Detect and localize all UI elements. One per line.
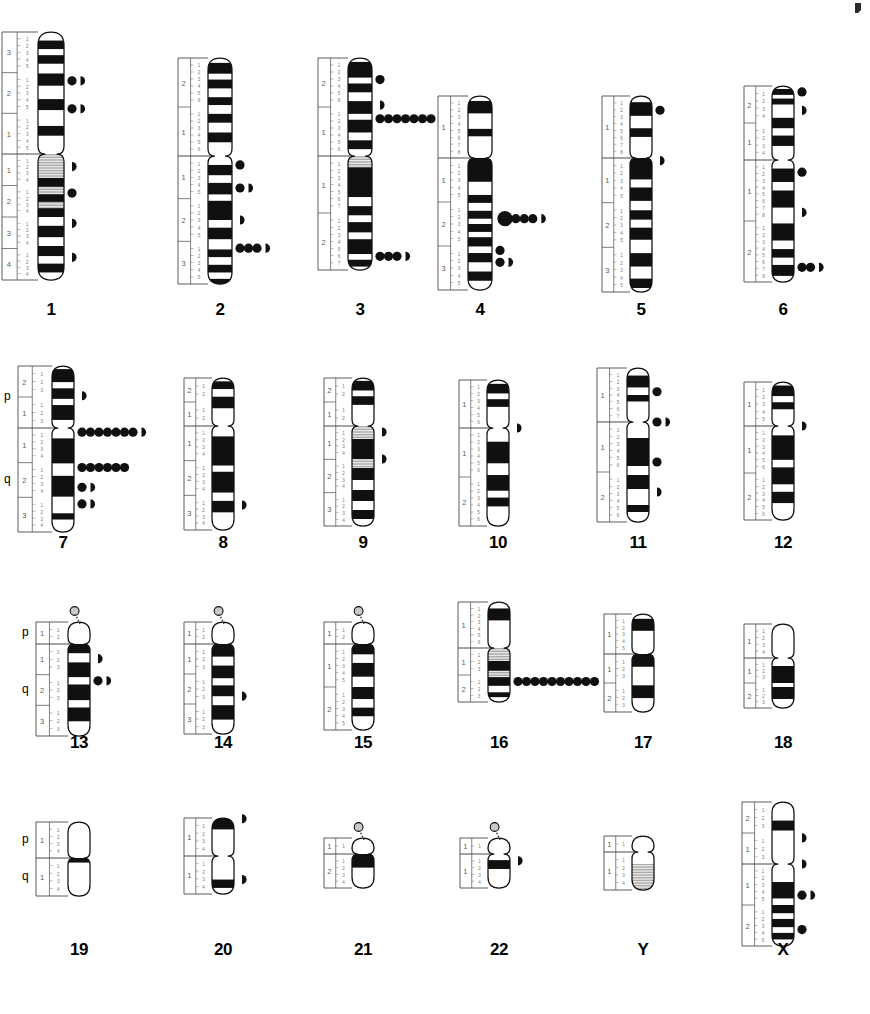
chromosome-body xyxy=(68,622,90,736)
svg-text:1: 1 xyxy=(202,466,205,471)
chromosome-18[interactable]: 1123411232123 xyxy=(738,618,870,718)
svg-text:1: 1 xyxy=(746,881,750,890)
svg-text:1: 1 xyxy=(605,123,609,132)
svg-text:2: 2 xyxy=(458,108,461,113)
svg-text:7: 7 xyxy=(338,261,341,266)
full-circle-marker xyxy=(103,428,112,437)
full-circle-marker xyxy=(556,677,565,686)
svg-text:1: 1 xyxy=(462,449,466,458)
svg-text:4: 4 xyxy=(620,231,623,236)
svg-text:3: 3 xyxy=(40,717,44,726)
svg-text:3: 3 xyxy=(57,665,60,670)
svg-text:1: 1 xyxy=(327,439,331,448)
svg-text:4: 4 xyxy=(338,183,341,188)
marker-group xyxy=(518,856,523,865)
half-circle-marker xyxy=(72,162,77,171)
svg-text:3: 3 xyxy=(338,176,341,181)
half-circle-marker xyxy=(81,76,86,85)
chromosome-label-10: 10 xyxy=(468,533,528,553)
svg-text:1: 1 xyxy=(342,384,345,389)
svg-text:5: 5 xyxy=(622,646,625,651)
svg-text:2: 2 xyxy=(22,378,26,387)
svg-text:1: 1 xyxy=(41,433,44,438)
svg-text:1: 1 xyxy=(342,844,345,849)
half-circle-marker xyxy=(107,676,112,685)
chromosome-body xyxy=(468,96,492,290)
svg-text:1: 1 xyxy=(622,858,625,863)
svg-text:6: 6 xyxy=(477,420,480,425)
svg-text:3: 3 xyxy=(202,839,205,844)
half-circle-marker xyxy=(802,208,807,217)
chromosome-label-Y: Y xyxy=(613,940,673,960)
svg-text:2: 2 xyxy=(620,261,623,266)
svg-text:3: 3 xyxy=(198,126,201,131)
svg-text:3: 3 xyxy=(622,873,625,878)
svg-text:3: 3 xyxy=(458,115,461,120)
svg-text:7: 7 xyxy=(620,143,623,148)
full-circle-marker xyxy=(77,428,86,437)
svg-text:3: 3 xyxy=(762,179,765,184)
chromosome-body xyxy=(772,802,794,946)
svg-text:2: 2 xyxy=(182,79,186,88)
half-circle-marker xyxy=(249,183,254,192)
svg-text:1: 1 xyxy=(322,181,326,190)
svg-text:1: 1 xyxy=(762,629,765,634)
svg-text:2: 2 xyxy=(41,510,44,515)
svg-text:2: 2 xyxy=(762,233,765,238)
half-circle-marker xyxy=(811,891,816,900)
chromosome-X[interactable]: 21231123112345212345 xyxy=(736,796,870,956)
svg-text:2: 2 xyxy=(202,473,205,478)
svg-text:4: 4 xyxy=(202,847,205,852)
svg-text:3: 3 xyxy=(198,261,201,266)
svg-text:3: 3 xyxy=(762,824,765,829)
svg-text:4: 4 xyxy=(26,209,29,214)
chromosome-label-17: 17 xyxy=(613,733,673,753)
svg-text:2: 2 xyxy=(198,169,201,174)
svg-text:1: 1 xyxy=(22,409,26,418)
svg-text:4: 4 xyxy=(620,122,623,127)
svg-text:3: 3 xyxy=(622,703,625,708)
svg-text:4: 4 xyxy=(458,186,461,191)
svg-text:5: 5 xyxy=(620,283,623,288)
arm-label-p: p xyxy=(22,832,29,846)
full-circle-marker xyxy=(86,428,95,437)
svg-text:1: 1 xyxy=(202,501,205,506)
svg-text:3: 3 xyxy=(762,924,765,929)
svg-text:1: 1 xyxy=(202,710,205,715)
svg-text:4: 4 xyxy=(26,139,29,144)
svg-text:1: 1 xyxy=(7,166,11,175)
svg-text:3: 3 xyxy=(41,517,44,522)
svg-text:1: 1 xyxy=(22,441,26,450)
svg-text:2: 2 xyxy=(762,694,765,699)
full-circle-marker xyxy=(375,114,384,123)
svg-text:4: 4 xyxy=(477,406,480,411)
svg-text:1: 1 xyxy=(478,653,481,658)
svg-text:2: 2 xyxy=(202,657,205,662)
full-circle-marker xyxy=(94,428,103,437)
svg-text:2: 2 xyxy=(57,872,60,877)
chromosome-body xyxy=(772,624,794,708)
svg-text:1: 1 xyxy=(747,637,751,646)
svg-text:1: 1 xyxy=(762,388,765,393)
marker-group xyxy=(242,814,247,884)
svg-text:4: 4 xyxy=(617,449,620,454)
svg-text:4: 4 xyxy=(342,714,345,719)
half-circle-marker xyxy=(802,859,807,868)
full-circle-marker xyxy=(94,463,103,472)
svg-text:2: 2 xyxy=(198,254,201,259)
full-circle-marker xyxy=(384,114,393,123)
svg-text:3: 3 xyxy=(762,144,765,149)
svg-text:1: 1 xyxy=(26,190,29,195)
svg-text:4: 4 xyxy=(458,230,461,235)
svg-text:2: 2 xyxy=(202,635,205,640)
svg-text:3: 3 xyxy=(198,77,201,82)
svg-text:1: 1 xyxy=(462,400,466,409)
svg-text:3: 3 xyxy=(458,222,461,227)
svg-text:4: 4 xyxy=(342,484,345,489)
full-circle-marker xyxy=(418,114,427,123)
chromosome-6[interactable]: 2123411234112345678212345678 xyxy=(738,80,870,292)
svg-text:2: 2 xyxy=(617,380,620,385)
svg-text:3: 3 xyxy=(342,707,345,712)
svg-text:2: 2 xyxy=(202,392,205,397)
chromosome-12[interactable]: 11234511234562123456 xyxy=(738,376,870,530)
